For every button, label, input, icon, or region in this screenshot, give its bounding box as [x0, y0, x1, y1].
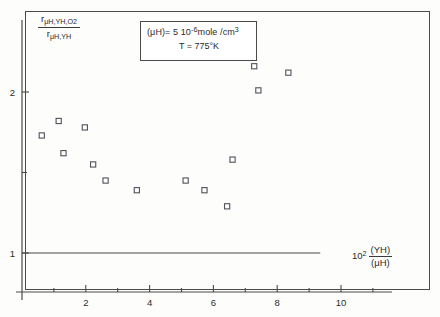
data-point-marker — [91, 162, 96, 167]
plot-area: 24681012 — [0, 0, 440, 317]
data-point-marker — [61, 151, 66, 156]
x-tick-label: 2 — [83, 297, 88, 308]
data-point-marker — [252, 64, 257, 69]
data-point-marker — [202, 188, 207, 193]
data-point-marker — [230, 157, 235, 162]
data-point-marker — [39, 133, 44, 138]
data-point-marker — [183, 178, 188, 183]
data-point-marker — [225, 204, 230, 209]
data-points-group — [39, 64, 291, 209]
data-point-marker — [286, 70, 291, 75]
data-point-marker — [256, 88, 261, 93]
ticks-group — [22, 92, 373, 292]
data-point-marker — [56, 118, 61, 123]
y-tick-label: 1 — [10, 248, 15, 259]
x-tick-label: 6 — [211, 297, 216, 308]
figure-canvas: rμH,YH,O2 rμH,YH (μH)= 5 10-6mole /cm3 T… — [0, 0, 440, 317]
y-tick-label: 2 — [10, 87, 15, 98]
data-point-marker — [134, 188, 139, 193]
axes-group — [16, 20, 392, 300]
x-tick-label: 8 — [275, 297, 280, 308]
data-point-marker — [103, 178, 108, 183]
data-point-marker — [82, 125, 87, 130]
x-tick-label: 4 — [147, 297, 152, 308]
x-tick-label: 10 — [336, 297, 347, 308]
